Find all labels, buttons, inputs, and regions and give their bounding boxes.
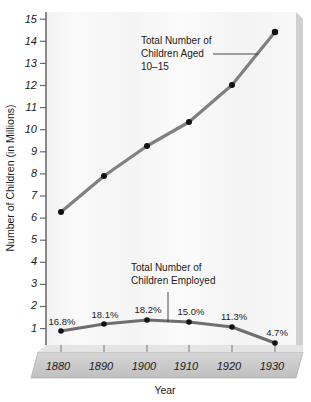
data-point xyxy=(144,143,150,149)
annotation-line: Total Number of xyxy=(131,262,202,273)
y-tick-label: 8 xyxy=(31,167,38,179)
y-tick-label: 11 xyxy=(26,101,37,113)
percentage-label: 11.3% xyxy=(221,311,248,322)
line-chart: 15 14 13 12 11 10 9 8 7 6 5 4 3 2 1 Numb… xyxy=(0,0,311,402)
y-tick-label: 1 xyxy=(31,322,37,334)
annotation-line: Total Number of xyxy=(141,35,212,46)
annotation-line: Children Employed xyxy=(131,275,216,286)
data-point xyxy=(229,82,235,88)
chart-container: 15 14 13 12 11 10 9 8 7 6 5 4 3 2 1 Numb… xyxy=(0,0,311,402)
data-point xyxy=(101,321,107,327)
data-point xyxy=(186,319,192,325)
panel-right-bevel xyxy=(296,12,303,352)
y-axis-ticks xyxy=(40,19,46,328)
x-axis-title: Year xyxy=(154,384,176,396)
data-point xyxy=(101,173,107,179)
x-tick-label: 1890 xyxy=(89,360,114,372)
data-point xyxy=(186,119,192,125)
data-point xyxy=(272,29,278,35)
y-tick-label: 4 xyxy=(31,255,37,267)
x-tick-label: 1910 xyxy=(174,360,199,372)
y-tick-label: 12 xyxy=(25,79,37,91)
percentage-label: 16.8% xyxy=(49,316,76,327)
data-point xyxy=(58,209,64,215)
data-point xyxy=(144,317,150,323)
percentage-label: 18.2% xyxy=(135,304,162,315)
y-tick-label: 5 xyxy=(31,233,38,245)
y-tick-label: 15 xyxy=(25,13,38,25)
percentage-label: 15.0% xyxy=(178,306,205,317)
annotation-line: Children Aged xyxy=(141,48,204,59)
y-tick-label: 7 xyxy=(31,189,38,201)
y-axis-title: Number of Children (in Millions) xyxy=(4,104,16,251)
data-point xyxy=(229,324,235,330)
panel-top-bevel xyxy=(46,5,303,12)
y-tick-label: 6 xyxy=(31,211,38,223)
y-tick-label: 2 xyxy=(30,299,37,311)
x-tick-label: 1900 xyxy=(132,360,157,372)
x-tick-label: 1920 xyxy=(217,360,242,372)
y-tick-label: 9 xyxy=(31,145,37,157)
y-tick-label: 3 xyxy=(31,277,38,289)
annotation-line: 10–15 xyxy=(141,61,169,72)
data-point xyxy=(58,328,64,334)
y-tick-label: 14 xyxy=(25,35,37,47)
data-point xyxy=(272,340,278,346)
y-tick-label: 10 xyxy=(25,123,38,135)
x-tick-label: 1930 xyxy=(260,360,285,372)
y-tick-label: 13 xyxy=(25,57,38,69)
x-tick-label: 1880 xyxy=(46,360,71,372)
percentage-label: 18.1% xyxy=(92,309,119,320)
percentage-label: 4.7% xyxy=(266,327,288,338)
plot-background xyxy=(46,12,296,345)
y-axis-tick-labels: 15 14 13 12 11 10 9 8 7 6 5 4 3 2 1 xyxy=(25,13,38,334)
